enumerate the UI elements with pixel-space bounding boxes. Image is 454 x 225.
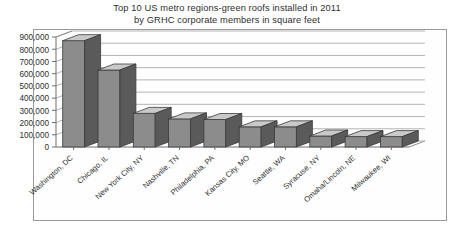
ytick-label: 100,000 [19, 131, 49, 140]
ytick-label: 800,000 [19, 46, 49, 55]
bar-front-face[interactable] [133, 113, 155, 147]
bar-front-face[interactable] [380, 137, 402, 147]
ytick-label: 200,000 [19, 119, 49, 128]
bar-column[interactable] [239, 121, 277, 147]
xtick-label: Seattle, WA [251, 153, 287, 187]
bar-column[interactable] [98, 64, 136, 147]
xtick-label: Chicago, IL [75, 153, 110, 185]
bars-group [63, 35, 419, 147]
bar-column[interactable] [380, 131, 418, 147]
y-axis-depth-line [56, 31, 72, 37]
bar-column[interactable] [63, 35, 101, 147]
bar-column[interactable] [133, 107, 171, 147]
ytick-label: 300,000 [19, 107, 49, 116]
bar-column[interactable] [169, 113, 207, 147]
ytick-label: 0 [44, 143, 49, 152]
bar-column[interactable] [310, 130, 348, 147]
ytick-label: 700,000 [19, 58, 49, 67]
bar-front-face[interactable] [169, 119, 191, 147]
bar-front-face[interactable] [239, 127, 261, 147]
bar-front-face[interactable] [310, 136, 332, 147]
bar-chart-plot: 900,000800,000700,000600,000500,000400,0… [0, 0, 454, 225]
xtick-label: Washington, DC [28, 153, 75, 197]
bar-column[interactable] [345, 131, 383, 147]
bar-column[interactable] [275, 121, 313, 147]
ytick-label: 400,000 [19, 94, 49, 103]
bar-front-face[interactable] [275, 127, 297, 147]
bar-front-face[interactable] [345, 137, 367, 147]
bar-front-face[interactable] [63, 41, 85, 147]
ytick-labels-group: 900,000800,000700,000600,000500,000400,0… [19, 33, 49, 152]
ytick-label: 600,000 [19, 70, 49, 79]
chart-frame: Top 10 US metro regions-green roofs inst… [0, 0, 454, 225]
xtick-labels-group: Washington, DCChicago, ILNew York City, … [28, 147, 393, 204]
ytick-label: 900,000 [19, 33, 49, 42]
ytick-label: 500,000 [19, 82, 49, 91]
ytick-marks-group [52, 37, 56, 147]
bar-front-face[interactable] [204, 120, 226, 148]
bar-front-face[interactable] [98, 70, 120, 147]
bar-column[interactable] [204, 114, 242, 148]
